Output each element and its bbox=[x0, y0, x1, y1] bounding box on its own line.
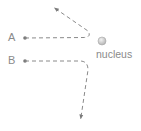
path-a bbox=[23, 9, 89, 40]
label-b: B bbox=[8, 55, 15, 66]
label-a: A bbox=[8, 32, 15, 43]
scattering-diagram: A B nucleus bbox=[0, 0, 141, 131]
label-nucleus: nucleus bbox=[96, 49, 132, 60]
path-a-trajectory bbox=[25, 9, 89, 38]
nucleus-icon bbox=[98, 37, 106, 45]
nucleus bbox=[98, 37, 106, 45]
path-b-trajectory bbox=[25, 61, 88, 117]
diagram-canvas bbox=[0, 0, 141, 131]
path-b bbox=[23, 59, 88, 117]
